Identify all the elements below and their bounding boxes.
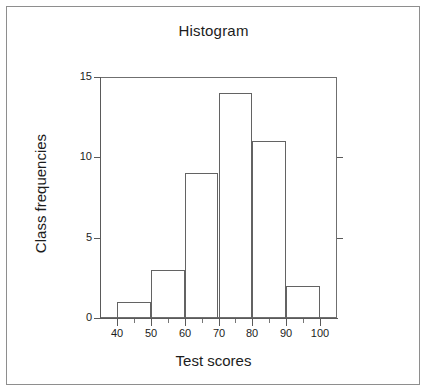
x-axis-tick (185, 319, 186, 326)
y-axis-tick-label: 15 (52, 71, 92, 82)
y-axis-title: Class frequencies (32, 94, 49, 294)
plot-area (100, 77, 337, 318)
x-axis-tick (151, 319, 152, 326)
x-axis-tick (286, 319, 287, 326)
y-axis-line (100, 77, 101, 319)
x-axis-title: Test scores (0, 352, 427, 369)
y-axis-tick (94, 318, 101, 319)
x-axis-minor-tick (134, 319, 135, 323)
y-axis-tick (94, 157, 101, 158)
y-axis-tick (94, 77, 101, 78)
x-axis-tick-label: 100 (300, 328, 340, 339)
y-axis-tick-label: 5 (52, 232, 92, 243)
chart-title: Histogram (0, 22, 427, 39)
x-axis-tick (320, 319, 321, 326)
y-axis-tick-label: 0 (52, 312, 92, 323)
x-axis-tick (252, 319, 253, 326)
y-axis-tick-label: 10 (52, 151, 92, 162)
histogram-bar (117, 302, 151, 318)
y-axis-tick-right (337, 157, 343, 158)
x-axis-minor-tick (303, 319, 304, 323)
histogram-bar (252, 141, 286, 318)
x-axis-tick (219, 319, 220, 326)
x-axis-tick (117, 319, 118, 326)
x-axis-minor-tick (202, 319, 203, 323)
histogram-bar (286, 286, 320, 318)
y-axis-tick (94, 238, 101, 239)
bars-layer (100, 77, 337, 318)
y-axis-tick-right (337, 238, 343, 239)
x-axis-minor-tick (269, 319, 270, 323)
x-axis-minor-tick (235, 319, 236, 323)
histogram-bar (185, 173, 219, 318)
histogram-figure: Histogram 051015 405060708090100 Test sc… (0, 0, 427, 392)
histogram-bar (219, 93, 253, 318)
histogram-bar (151, 270, 185, 318)
x-axis-minor-tick (168, 319, 169, 323)
